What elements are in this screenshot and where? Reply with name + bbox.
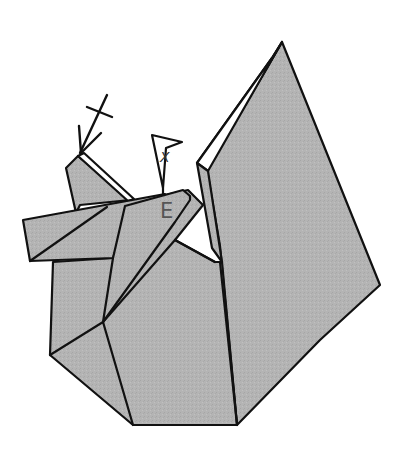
flag-label-x: X (159, 149, 170, 165)
reference-label-e: E (160, 199, 173, 223)
fold-arrow-icon (79, 95, 112, 153)
flag-marker: X (152, 135, 182, 195)
origami-diagram: E X (0, 0, 393, 455)
